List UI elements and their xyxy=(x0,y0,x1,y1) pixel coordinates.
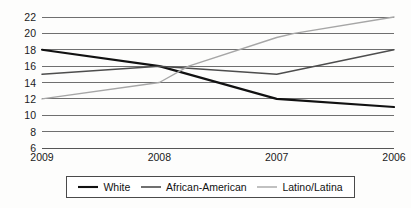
y-tick-label-16: 16 xyxy=(2,61,36,71)
legend-label: Latino/Latina xyxy=(282,181,342,193)
y-axis-labels: 2220181614121086 xyxy=(0,17,36,148)
y-tick-label-12: 12 xyxy=(2,94,36,104)
legend-item-white[interactable]: White xyxy=(78,181,130,193)
x-tick-label-2007: 2007 xyxy=(265,151,288,163)
legend-swatch-icon xyxy=(78,184,98,190)
y-tick-label-18: 18 xyxy=(2,45,36,55)
legend-item-african-american[interactable]: African-American xyxy=(141,181,247,193)
chart-legend: WhiteAfrican-AmericanLatino/Latina xyxy=(66,176,355,198)
series-lines xyxy=(42,17,394,148)
legend-swatch-icon xyxy=(141,184,161,190)
x-tick-label-2008: 2008 xyxy=(148,151,171,163)
y-tick-label-8: 8 xyxy=(2,127,36,137)
series-line-white xyxy=(42,50,394,107)
x-tick-label-2009: 2009 xyxy=(30,151,53,163)
x-axis-labels: 2009200820072006 xyxy=(42,151,394,167)
legend-item-latino-latina[interactable]: Latino/Latina xyxy=(257,181,342,193)
line-chart: 2220181614121086 2009200820072006 WhiteA… xyxy=(0,0,411,208)
legend-label: African-American xyxy=(166,181,247,193)
y-tick-label-22: 22 xyxy=(2,12,36,22)
plot-area xyxy=(42,17,394,148)
legend-swatch-icon xyxy=(257,184,277,190)
x-tick-label-2006: 2006 xyxy=(382,151,405,163)
series-line-african-american xyxy=(42,50,394,75)
y-tick-label-20: 20 xyxy=(2,28,36,38)
legend-label: White xyxy=(103,181,130,193)
y-tick-label-10: 10 xyxy=(2,110,36,120)
y-tick-label-14: 14 xyxy=(2,78,36,88)
